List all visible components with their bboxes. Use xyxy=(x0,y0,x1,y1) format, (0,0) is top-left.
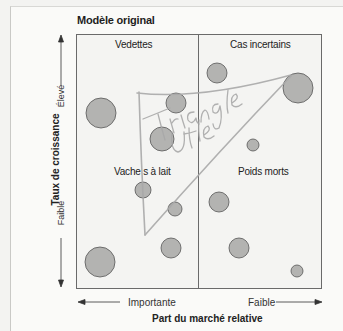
bubble xyxy=(247,139,259,151)
bubble xyxy=(209,192,229,212)
bubble xyxy=(161,238,181,258)
bubble xyxy=(207,63,227,83)
x-axis-arrow-icon xyxy=(78,300,322,305)
bubble xyxy=(168,202,182,216)
bubble xyxy=(291,265,303,277)
bubble xyxy=(86,98,116,128)
bubble xyxy=(283,73,313,103)
bubble xyxy=(229,238,249,258)
y-axis-arrow-icon xyxy=(59,35,64,287)
bubbles xyxy=(85,63,313,277)
bubble xyxy=(85,247,115,277)
bubble xyxy=(166,93,186,113)
